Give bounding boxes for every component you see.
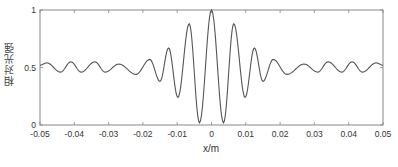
x-tick-label: -0.02 (133, 129, 153, 139)
y-tick-label: 0 (31, 120, 36, 130)
x-tick-label: 0.01 (238, 129, 255, 139)
x-axis-ticks: -0.05-0.04-0.03-0.02-0.0100.010.020.030.… (30, 10, 391, 139)
intensity-chart: -0.05-0.04-0.03-0.02-0.0100.010.020.030.… (0, 0, 398, 167)
y-axis-label: 相对光强 (2, 42, 16, 86)
x-tick-label: 0.05 (375, 129, 392, 139)
x-tick-label: 0.04 (340, 129, 357, 139)
x-tick-label: 0 (209, 129, 214, 139)
y-tick-label: 1 (31, 5, 36, 15)
x-tick-label: 0.03 (306, 129, 323, 139)
x-tick-label: -0.05 (30, 129, 50, 139)
x-tick-label: -0.01 (168, 129, 188, 139)
x-tick-label: -0.03 (99, 129, 119, 139)
intensity-curve (40, 10, 383, 123)
plot-frame (40, 10, 383, 125)
y-axis-ticks: 00.51 (24, 5, 383, 130)
x-tick-label: 0.02 (272, 129, 289, 139)
y-tick-label: 0.5 (24, 63, 36, 73)
x-tick-label: -0.04 (65, 129, 85, 139)
x-axis-label: x/m (203, 143, 219, 154)
